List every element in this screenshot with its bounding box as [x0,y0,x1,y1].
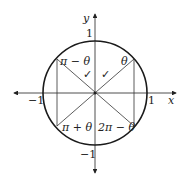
y-pos-tick-label: 1 [86,27,93,40]
x-axis-label: x [168,94,175,107]
origin-point [94,92,97,95]
y-neg-tick-label: −1 [80,148,96,161]
x-pos-tick-label: 1 [148,94,155,107]
x-neg-tick-label: −1 [28,94,44,107]
angle-label-q1: θ [121,55,128,68]
unit-circle-diagram: y x 1 −1 1 −1 θ π − θ π + θ 2π − θ ✓ ✓ [0,0,187,175]
angle-label-q3: π + θ [61,121,92,134]
angle-label-q4: 2π − θ [97,121,135,134]
angle-label-q2: π − θ [59,55,90,68]
y-axis-label: y [82,12,90,25]
check-mark-right: ✓ [101,68,110,81]
check-mark-left: ✓ [83,68,92,81]
